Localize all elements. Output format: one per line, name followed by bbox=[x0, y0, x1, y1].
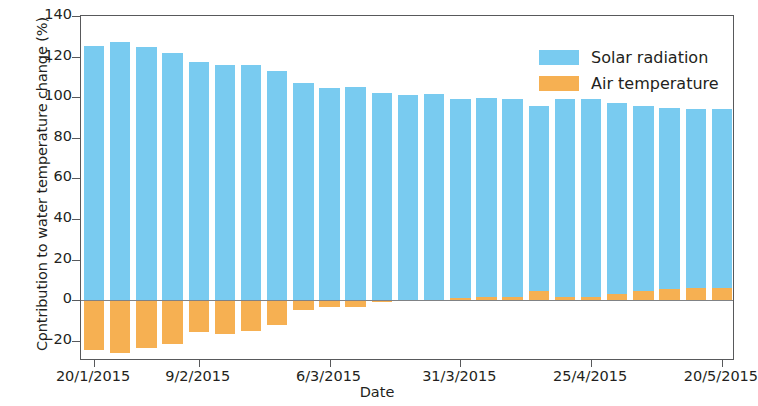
zero-baseline bbox=[81, 300, 733, 301]
bar-solar-radiation bbox=[398, 95, 418, 300]
y-axis-tick bbox=[72, 16, 81, 17]
legend-label-solar-radiation: Solar radiation bbox=[591, 48, 708, 67]
bar-air-temperature bbox=[136, 300, 156, 348]
bar-air-temperature bbox=[502, 297, 522, 300]
bar-air-temperature bbox=[529, 291, 549, 300]
bar-air-temperature bbox=[607, 294, 627, 300]
bar-air-temperature bbox=[633, 291, 653, 300]
bar-air-temperature bbox=[581, 297, 601, 300]
y-axis-tick-label: 60 bbox=[26, 169, 72, 184]
y-axis-tick-label: −20 bbox=[26, 332, 72, 347]
y-axis-tick bbox=[72, 97, 81, 98]
y-axis-tick-label: 80 bbox=[26, 129, 72, 144]
plot-area: Solar radiation Air temperature bbox=[80, 15, 734, 360]
bar-solar-radiation bbox=[712, 109, 732, 300]
y-axis-tick bbox=[72, 138, 81, 139]
x-axis-tick-label: 9/2/2015 bbox=[165, 368, 230, 384]
x-axis-tick bbox=[460, 359, 461, 367]
legend-item-air-temperature: Air temperature bbox=[539, 70, 719, 96]
y-axis-tick-label: 100 bbox=[26, 88, 72, 103]
bar-air-temperature bbox=[476, 297, 496, 300]
legend-item-solar-radiation: Solar radiation bbox=[539, 44, 719, 70]
x-axis-tick bbox=[722, 359, 723, 367]
bar-air-temperature bbox=[84, 300, 104, 350]
bar-air-temperature bbox=[110, 300, 130, 353]
bar-solar-radiation bbox=[529, 106, 549, 300]
x-axis-tick-label: 31/3/2015 bbox=[422, 368, 496, 384]
bar-solar-radiation bbox=[424, 94, 444, 300]
legend-swatch-solar-radiation bbox=[539, 50, 579, 65]
bar-solar-radiation bbox=[84, 46, 104, 300]
y-axis-tick bbox=[72, 57, 81, 58]
x-axis-tick-label: 20/5/2015 bbox=[684, 368, 758, 384]
bar-solar-radiation bbox=[136, 47, 156, 300]
y-axis-tick bbox=[72, 219, 81, 220]
x-axis-tick bbox=[199, 359, 200, 367]
bar-solar-radiation bbox=[162, 53, 182, 301]
bar-solar-radiation bbox=[555, 99, 575, 300]
bar-solar-radiation bbox=[450, 99, 470, 300]
bar-air-temperature bbox=[450, 298, 470, 300]
bar-air-temperature bbox=[241, 300, 261, 330]
bar-solar-radiation bbox=[345, 87, 365, 300]
bar-solar-radiation bbox=[189, 62, 209, 300]
bar-air-temperature bbox=[293, 300, 313, 310]
legend-swatch-air-temperature bbox=[539, 76, 579, 91]
y-axis-tick-label: 40 bbox=[26, 210, 72, 225]
bar-solar-radiation bbox=[241, 65, 261, 300]
y-axis-tick-label: 120 bbox=[26, 48, 72, 63]
y-axis-tick bbox=[72, 300, 81, 301]
bar-solar-radiation bbox=[319, 88, 339, 300]
chart-legend: Solar radiation Air temperature bbox=[539, 44, 719, 96]
x-axis-title: Date bbox=[0, 384, 754, 400]
x-axis-tick-label: 20/1/2015 bbox=[56, 368, 130, 384]
x-axis-tick-label: 25/4/2015 bbox=[553, 368, 627, 384]
bar-solar-radiation bbox=[686, 109, 706, 300]
bar-air-temperature bbox=[267, 300, 287, 325]
bar-solar-radiation bbox=[607, 103, 627, 300]
x-axis-tick-label: 6/3/2015 bbox=[296, 368, 361, 384]
bar-solar-radiation bbox=[581, 99, 601, 300]
bar-solar-radiation bbox=[110, 42, 130, 300]
x-axis-tick bbox=[591, 359, 592, 367]
x-axis-tick bbox=[330, 359, 331, 367]
bar-solar-radiation bbox=[267, 71, 287, 300]
y-axis-tick bbox=[72, 178, 81, 179]
x-axis-tick bbox=[94, 359, 95, 367]
y-axis-tick bbox=[72, 260, 81, 261]
y-axis-tick-label: 20 bbox=[26, 251, 72, 266]
bar-air-temperature bbox=[189, 300, 209, 331]
bar-solar-radiation bbox=[476, 98, 496, 300]
bar-solar-radiation bbox=[293, 83, 313, 300]
bar-air-temperature bbox=[162, 300, 182, 344]
y-axis-tick-label: 140 bbox=[26, 7, 72, 22]
bar-air-temperature bbox=[686, 288, 706, 300]
bar-solar-radiation bbox=[633, 106, 653, 300]
legend-label-air-temperature: Air temperature bbox=[591, 74, 719, 93]
y-axis-tick-label: 0 bbox=[26, 291, 72, 306]
bar-air-temperature bbox=[319, 300, 339, 307]
bar-solar-radiation bbox=[502, 99, 522, 300]
bar-solar-radiation bbox=[372, 93, 392, 300]
y-axis-tick bbox=[72, 341, 81, 342]
bar-solar-radiation bbox=[215, 65, 235, 300]
bar-air-temperature bbox=[345, 300, 365, 307]
bar-air-temperature bbox=[215, 300, 235, 333]
bar-air-temperature bbox=[659, 289, 679, 300]
bar-air-temperature bbox=[712, 288, 732, 300]
bar-solar-radiation bbox=[659, 108, 679, 300]
bar-air-temperature bbox=[555, 297, 575, 300]
